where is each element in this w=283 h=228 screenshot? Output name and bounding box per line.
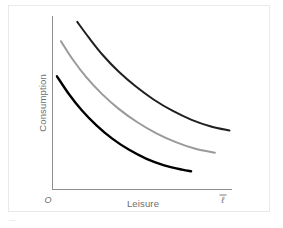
indifference-curve-1 (77, 22, 229, 131)
indifference-curve-3 (57, 76, 191, 171)
y-axis-title: Consumption (37, 74, 48, 132)
indifference-curve-2 (61, 41, 215, 152)
chart-plot: Consumption Leisure O ℓ (0, 0, 283, 228)
figure-container: Consumption Leisure O ℓ (0, 0, 283, 228)
origin-label: O (44, 195, 51, 205)
x-endpoint-label: ℓ (221, 195, 225, 205)
x-axis-title: Leisure (127, 198, 159, 209)
curve-layer (57, 22, 230, 171)
